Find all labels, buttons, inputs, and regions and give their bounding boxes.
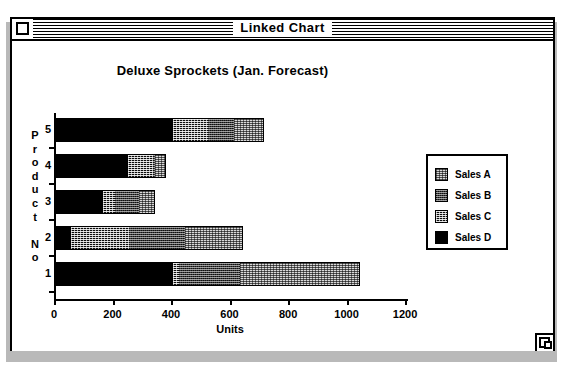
legend-label: Sales B [455,190,491,201]
y-axis-title-char: r [29,143,41,157]
bar-segment[interactable] [103,190,115,214]
legend-swatch [435,231,448,244]
bar-segment[interactable] [208,118,234,142]
x-axis-tick-label: 800 [279,308,297,320]
y-axis-tick [49,183,55,185]
y-axis-category-label: 4 [42,159,54,171]
chart-canvas: Deluxe Sprockets (Jan. Forecast) Product… [12,41,553,351]
window-title-bar[interactable]: Linked Chart [12,19,553,41]
x-axis-tick-label: 0 [51,308,57,320]
legend-item[interactable]: Sales C [435,206,506,227]
bar-segment[interactable] [71,226,130,250]
bar-segment[interactable] [129,226,185,250]
bar-segment[interactable] [185,226,244,250]
x-axis-tick-label: 1000 [334,308,358,320]
y-axis-title-char: o [29,156,41,170]
y-axis-title-char: c [29,197,41,211]
legend-item[interactable]: Sales A [435,164,506,185]
y-axis-tick [49,219,55,221]
plot-area: 020040060080010001200 [54,116,406,296]
bar-segment[interactable] [56,262,173,286]
x-axis-tick [347,299,349,305]
legend-label: Sales D [455,232,491,243]
y-axis-title-char: t [29,211,41,225]
x-axis-tick [171,299,173,305]
bar-segment[interactable] [128,154,153,178]
chart-window: Linked Chart Deluxe Sprockets (Jan. Fore… [10,17,555,351]
window-title: Linked Chart [12,20,553,35]
x-axis-tick-label: 600 [220,308,238,320]
bar-segment[interactable] [56,190,103,214]
x-axis-tick-label: 1200 [393,308,417,320]
legend-swatch [435,168,448,181]
y-axis-title-char: d [29,170,41,184]
x-axis-tick [230,299,232,305]
bar-segment[interactable] [179,262,240,286]
y-axis-category-label: 3 [42,195,54,207]
grow-box-icon[interactable] [535,333,553,351]
bar-segment[interactable] [139,190,155,214]
bar-segment[interactable] [56,118,173,142]
y-axis-category-label: 2 [42,231,54,243]
bar-segment[interactable] [155,154,165,178]
y-axis-title-char: u [29,183,41,197]
x-axis-tick [113,299,115,305]
y-axis-title-char: N [29,238,41,252]
x-axis-tick [405,299,407,305]
x-axis-tick [288,299,290,305]
bar-segment[interactable] [234,118,263,142]
legend-label: Sales C [455,211,491,222]
bar-segment[interactable] [173,118,208,142]
legend-swatch [435,189,448,202]
chart-legend: Sales ASales BSales CSales D [426,154,508,250]
legend-item[interactable]: Sales D [435,227,506,248]
y-axis-title: Product No [29,129,41,265]
x-axis-tick [54,299,56,305]
x-axis-tick-label: 200 [103,308,121,320]
bar-segment[interactable] [56,226,71,250]
x-axis-title: Units [216,323,244,335]
y-axis-title-char: P [29,129,41,143]
y-axis-category-label: 1 [42,267,54,279]
y-axis-tick [49,147,55,149]
grow-box-square-inner [544,341,552,349]
window-title-text: Linked Chart [233,20,331,35]
y-axis-category-label: 5 [42,123,54,135]
legend-item[interactable]: Sales B [435,185,506,206]
y-axis-title-char: o [29,251,41,265]
bar-segment[interactable] [240,262,360,286]
legend-swatch [435,210,448,223]
y-axis-tick [49,291,55,293]
y-axis-title-char [29,224,41,238]
bar-segment[interactable] [56,154,128,178]
y-axis-tick [49,255,55,257]
x-axis-tick-label: 400 [162,308,180,320]
chart-title: Deluxe Sprockets (Jan. Forecast) [12,63,553,78]
bar-segment[interactable] [115,190,140,214]
legend-label: Sales A [455,169,491,180]
